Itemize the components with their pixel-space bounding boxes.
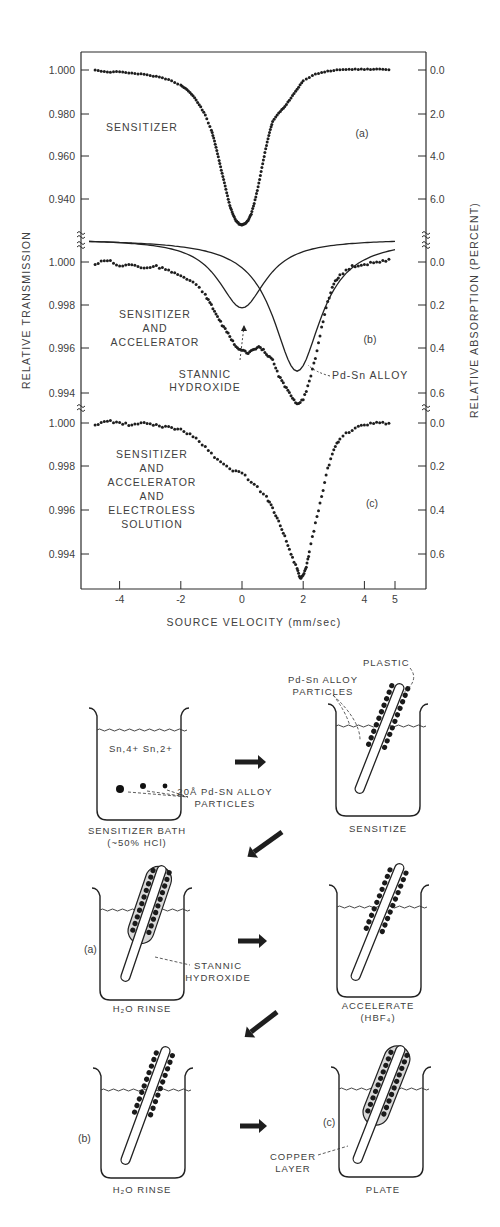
data-point: [161, 76, 164, 79]
data-point: [146, 266, 149, 269]
data-point: [302, 398, 305, 401]
data-point: [121, 423, 124, 426]
data-point: [217, 155, 220, 158]
plastic-rod-icon: [344, 860, 411, 984]
beaker-icon: [328, 704, 428, 816]
data-point: [250, 210, 253, 213]
data-point: [149, 74, 152, 77]
data-point: [366, 423, 369, 426]
data-point: [265, 495, 268, 498]
data-point: [118, 70, 121, 73]
data-point: [293, 398, 296, 401]
data-point: [307, 555, 310, 558]
data-point: [345, 431, 348, 434]
data-point: [332, 283, 335, 286]
plot-panels: 1.0000.9800.9600.9400.02.04.06.01.0000.9…: [49, 64, 445, 605]
data-point: [207, 298, 210, 301]
data-point: [211, 134, 214, 137]
data-point: [372, 261, 375, 264]
data-point: [106, 259, 109, 262]
y-tick-label-left: 0.996: [49, 342, 75, 354]
data-point: [266, 141, 269, 144]
data-point: [137, 72, 140, 75]
step-caption-h2o-rinse-a: H₂O RINSE: [113, 1003, 172, 1014]
data-point: [97, 69, 100, 72]
data-point: [319, 502, 322, 505]
data-point: [224, 188, 227, 191]
data-point: [366, 68, 369, 71]
data-point: [112, 70, 115, 73]
data-point: [176, 427, 179, 430]
data-point: [219, 460, 222, 463]
data-point: [94, 424, 97, 427]
data-point: [152, 75, 155, 78]
beaker-plate: [331, 1041, 431, 1177]
data-point: [213, 456, 216, 459]
data-point: [285, 386, 288, 389]
data-point: [326, 467, 329, 470]
data-point: [276, 516, 279, 519]
data-point: [329, 69, 332, 72]
step-caption-sensitizer-bath: (~50% HCl): [107, 837, 166, 848]
data-point: [354, 427, 357, 430]
data-point: [133, 72, 136, 75]
data-point: [354, 68, 357, 71]
data-point: [331, 286, 334, 289]
data-point: [192, 435, 195, 438]
data-point: [185, 432, 188, 435]
data-point: [247, 478, 250, 481]
stannic-hydroxide-annotation: HYDROXIDE: [169, 381, 240, 393]
data-point: [161, 426, 164, 429]
data-point: [158, 424, 161, 427]
data-point: [322, 320, 325, 323]
data-point: [205, 117, 208, 120]
data-point: [311, 74, 314, 77]
y-tick-label-right: 0.0: [430, 256, 445, 268]
data-point: [345, 68, 348, 71]
data-point: [262, 159, 265, 162]
panel-b-label: ACCELERATOR: [111, 336, 200, 348]
panel-c-label: ACCELERATOR: [108, 476, 197, 488]
data-point: [208, 125, 211, 128]
data-point: [250, 481, 253, 484]
figure-page: 1.0000.9800.9600.9400.02.04.06.01.0000.9…: [0, 0, 500, 1227]
data-point: [222, 463, 225, 466]
data-point: [283, 534, 286, 537]
data-point: [270, 123, 273, 126]
data-point: [369, 68, 372, 71]
data-point: [127, 263, 130, 266]
panel-c-label: SENSITIZER: [116, 448, 188, 460]
y-tick-label-right: 4.0: [430, 150, 445, 162]
data-point: [97, 423, 100, 426]
data-point: [387, 68, 390, 71]
data-point: [118, 265, 121, 268]
data-point: [225, 191, 228, 194]
data-point: [328, 464, 331, 467]
panel-c-tag: (c): [366, 497, 378, 509]
data-point: [297, 572, 300, 575]
data-point: [306, 384, 309, 387]
data-point: [384, 68, 387, 71]
data-point: [312, 530, 315, 533]
data-point: [360, 68, 363, 71]
data-point: [137, 265, 140, 268]
data-point: [299, 401, 302, 404]
data-point: [202, 111, 205, 114]
data-point: [121, 264, 124, 267]
data-point: [302, 79, 305, 82]
arrow-right-3-head: [259, 1119, 267, 1133]
data-point: [309, 375, 312, 378]
data-point: [152, 265, 155, 268]
data-point: [366, 263, 369, 266]
data-point: [100, 260, 103, 263]
data-point: [279, 376, 282, 379]
data-point: [210, 451, 213, 454]
data-point: [335, 68, 338, 71]
y-tick-label-right: 0.2: [430, 460, 445, 472]
data-point: [257, 182, 260, 185]
data-point: [164, 425, 167, 428]
data-point: [130, 263, 133, 266]
data-point: [170, 271, 173, 274]
data-point: [204, 114, 207, 117]
y-tick-label-left: 0.994: [49, 387, 75, 399]
